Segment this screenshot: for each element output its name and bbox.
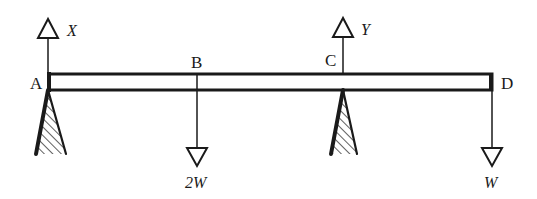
force-label-y: Y (361, 21, 372, 38)
beam-diagram-canvas: X Y 2W W A B C D (0, 0, 537, 199)
force-label-2w: 2W (185, 174, 208, 191)
point-label-d: D (501, 74, 513, 93)
arrowhead-down-icon (187, 148, 207, 166)
beam-diagram: X Y 2W W A B C D (0, 0, 537, 199)
force-label-w: W (484, 174, 499, 191)
arrowhead-down-icon (482, 148, 502, 166)
point-label-c: C (325, 51, 336, 70)
point-label-a: A (30, 74, 43, 93)
arrowhead-up-icon (333, 18, 353, 37)
support-c (325, 90, 365, 157)
load-arrow-w (482, 90, 502, 166)
arrowhead-up-icon (38, 19, 58, 38)
beam (49, 72, 492, 92)
force-label-x: X (66, 22, 78, 39)
support-a (30, 90, 70, 157)
reaction-arrow-x (38, 19, 58, 74)
point-label-b: B (191, 53, 202, 72)
beam-body (49, 74, 492, 90)
